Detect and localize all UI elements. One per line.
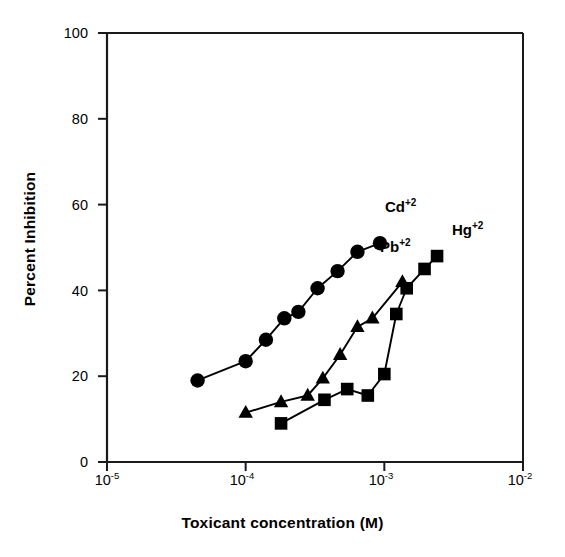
series-line-cd	[198, 243, 380, 380]
data-point-cd-0	[190, 373, 204, 387]
plot-area	[0, 0, 565, 557]
data-point-hg-2	[341, 383, 354, 396]
series-hg	[275, 250, 444, 430]
data-point-cd-6	[330, 264, 344, 278]
axes-group	[98, 33, 523, 471]
data-point-cd-4	[291, 305, 305, 319]
series-line-pb	[246, 282, 403, 413]
data-point-cd-5	[310, 281, 324, 295]
data-point-cd-3	[277, 311, 291, 325]
data-point-hg-1	[318, 393, 331, 406]
data-point-pb-4	[333, 347, 347, 360]
data-point-hg-3	[362, 389, 375, 402]
series-cd	[190, 236, 387, 388]
data-point-pb-5	[350, 319, 364, 332]
series-group	[190, 236, 443, 430]
data-point-hg-0	[275, 417, 288, 430]
data-point-hg-7	[418, 263, 431, 276]
data-point-cd-2	[259, 333, 273, 347]
data-point-cd-1	[238, 354, 252, 368]
data-point-hg-5	[390, 308, 403, 321]
data-point-cd-8	[373, 236, 387, 250]
data-point-hg-4	[378, 368, 391, 381]
data-point-cd-7	[350, 245, 364, 259]
chart-figure: Percent Inhibition Toxicant concentratio…	[0, 0, 565, 557]
data-point-hg-8	[431, 250, 444, 263]
data-point-hg-6	[400, 282, 413, 295]
